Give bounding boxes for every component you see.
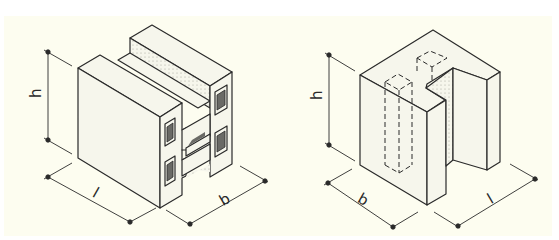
u-block-height-label: h [308, 90, 326, 100]
h-block-height-label: h [27, 88, 45, 98]
h-block-length-label: l [89, 184, 102, 202]
u-block-width-label: b [355, 189, 372, 209]
h-block [78, 25, 232, 208]
technical-drawing: h l b [0, 0, 559, 240]
h-block-width-label: b [216, 189, 233, 209]
u-block-length-label: l [484, 190, 497, 208]
u-block [360, 30, 500, 205]
